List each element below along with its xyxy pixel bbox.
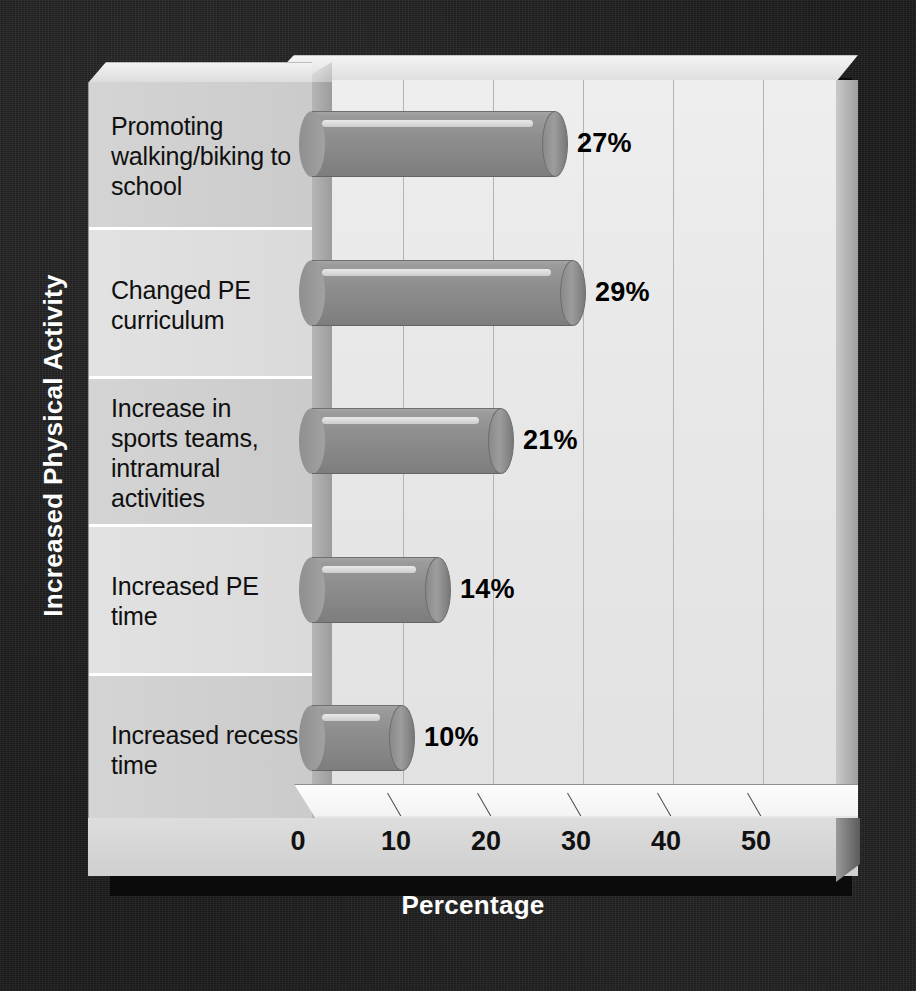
category-label: Increased recess time [89, 676, 313, 824]
gridline [763, 80, 764, 786]
bar-edge-bottom [312, 176, 555, 177]
bar-edge-top [312, 408, 501, 409]
bar [312, 260, 573, 326]
bar-highlight [322, 417, 479, 424]
bar-edge-top [312, 557, 438, 558]
bar-cap-left [299, 705, 325, 771]
bar-edge-top [312, 111, 555, 112]
plot-floor [294, 784, 858, 819]
bar-edge-bottom [312, 770, 402, 771]
x-axis-title: Percentage [88, 890, 858, 921]
bar-edge-top [312, 260, 573, 261]
chart-figure: Promoting walking/biking to schoolChange… [0, 0, 916, 991]
plot-top-surface [268, 55, 858, 82]
y-axis-title: Increased Physical Activity [38, 211, 69, 681]
bar-edge-bottom [312, 325, 573, 326]
category-label-panel: Promoting walking/biking to schoolChange… [88, 82, 313, 824]
bar [312, 705, 402, 771]
gridline [583, 80, 584, 786]
bar-cap-right [560, 260, 586, 326]
bar-highlight [322, 566, 416, 573]
gridline [673, 80, 674, 786]
x-tick-label: 0 [274, 826, 322, 857]
bar-cap-left [299, 111, 325, 177]
bar-value-label: 29% [595, 277, 650, 308]
x-tick-label: 10 [372, 826, 420, 857]
x-tick-label: 20 [462, 826, 510, 857]
bar-value-label: 14% [460, 574, 515, 605]
category-label: Promoting walking/biking to school [89, 82, 313, 230]
plot-right-side-panel [836, 80, 858, 786]
x-tick-label: 40 [642, 826, 690, 857]
bar-cap-left [299, 408, 325, 474]
category-panel-top-surface [88, 62, 312, 83]
category-label: Increase in sports teams, intramural act… [89, 379, 313, 527]
bar-cap-left [299, 557, 325, 623]
bar [312, 557, 438, 623]
bar-cap-right [389, 705, 415, 771]
bar-value-label: 10% [424, 722, 479, 753]
bar-value-label: 27% [577, 128, 632, 159]
bar-highlight [322, 269, 551, 276]
x-tick-label: 30 [552, 826, 600, 857]
bar-cap-right [425, 557, 451, 623]
bar-cap-right [542, 111, 568, 177]
bar [312, 408, 501, 474]
bar [312, 111, 555, 177]
bar-cap-right [488, 408, 514, 474]
category-label: Changed PE curriculum [89, 230, 313, 378]
bar-value-label: 21% [523, 425, 578, 456]
x-tick-label: 50 [732, 826, 780, 857]
category-label: Increased PE time [89, 527, 313, 675]
bar-edge-bottom [312, 473, 501, 474]
bar-cap-left [299, 260, 325, 326]
bar-highlight [322, 714, 380, 721]
bar-edge-top [312, 705, 402, 706]
bar-highlight [322, 120, 533, 127]
bar-edge-bottom [312, 622, 438, 623]
